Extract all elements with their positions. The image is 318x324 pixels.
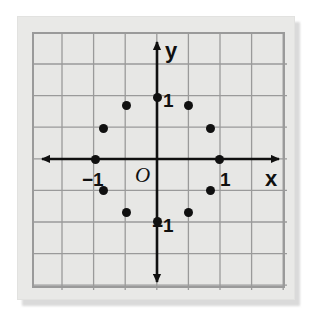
axes [34,34,287,290]
coordinate-plane-figure: O y x 1−1−11 [0,0,318,324]
plot-area: O y x 1−1−11 [32,32,285,288]
